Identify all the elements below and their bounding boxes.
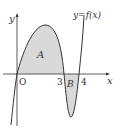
origin-label: O [19, 77, 26, 87]
x-axis-label: x [107, 75, 113, 86]
tick-label-4: 4 [81, 77, 87, 87]
function-graph: y x O 3 4 A B y=f(x) [0, 0, 124, 135]
y-axis-arrow-icon [16, 13, 19, 17]
region-b-label: B [66, 79, 74, 89]
region-a-label: A [36, 49, 44, 60]
function-label: y=f(x) [72, 10, 102, 20]
y-axis-label: y [8, 13, 15, 24]
tick-label-3: 3 [57, 77, 63, 87]
